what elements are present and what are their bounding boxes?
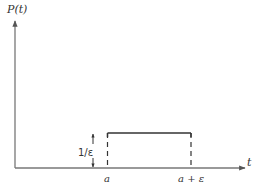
tick-label-a: a	[104, 173, 110, 184]
x-axis-label: t	[247, 156, 252, 169]
height-label: 1/ε	[78, 147, 93, 158]
tick-label-a-plus-epsilon: a + ε	[178, 173, 204, 184]
y-axis-label: P(t)	[6, 3, 27, 16]
pulse-diagram: P(t) t 1/ε a a + ε	[0, 0, 256, 194]
